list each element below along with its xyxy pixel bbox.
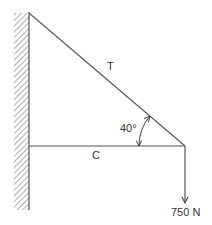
truss-diagram — [0, 0, 212, 225]
tension-member — [29, 13, 185, 146]
wall-hatching — [14, 13, 29, 210]
load-label: 750 N — [171, 207, 200, 218]
angle-arc — [139, 116, 150, 146]
wall — [14, 12, 29, 210]
tension-label: T — [107, 61, 114, 72]
compression-label: C — [92, 150, 100, 161]
angle-label: 40° — [120, 123, 137, 134]
